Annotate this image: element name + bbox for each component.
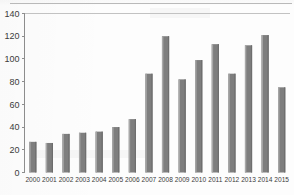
x-axis-tick-label: 2008: [158, 176, 173, 183]
bar-shadow-edge: [218, 44, 219, 172]
bar: [129, 119, 136, 172]
x-axis-tick-label: 2013: [241, 176, 256, 183]
bar-highlight-edge: [29, 142, 30, 173]
y-axis-tick-label: 80: [9, 77, 19, 87]
bar-highlight-edge: [79, 133, 80, 173]
bar-shadow-edge: [35, 142, 36, 173]
bar-shadow-edge: [68, 134, 69, 173]
bar-shadow-edge: [85, 133, 86, 173]
x-axis-tick-label: 2011: [208, 176, 223, 183]
bar-shadow-edge: [284, 87, 285, 172]
bar: [162, 36, 169, 172]
bar-shadow-edge: [268, 35, 269, 172]
bar-highlight-edge: [162, 36, 163, 172]
bar-highlight-edge: [262, 35, 263, 172]
x-axis-tick-label: 2000: [25, 176, 40, 183]
bar-highlight-edge: [145, 74, 146, 173]
x-axis-tick-label: 2015: [274, 176, 289, 183]
chart-plot-area: 0204060801001201402000200120022003200420…: [4, 9, 290, 183]
x-axis-tick-label: 2007: [142, 176, 157, 183]
x-axis-tick-label: 2001: [42, 176, 57, 183]
bar: [145, 74, 152, 173]
x-axis-tick-label: 2002: [59, 176, 74, 183]
y-axis-tick-label: 20: [9, 145, 19, 155]
bar-shadow-edge: [52, 143, 53, 173]
bar-shadow-edge: [201, 60, 202, 172]
x-axis-tick-label: 2004: [92, 176, 107, 183]
bar-chart: 0204060801001201402000200120022003200420…: [0, 0, 294, 195]
bar-shadow-edge: [102, 132, 103, 173]
bar: [179, 79, 186, 172]
bar-highlight-edge: [228, 74, 229, 173]
bar-shadow-edge: [168, 36, 169, 172]
y-axis-tick-label: 60: [9, 100, 19, 110]
x-axis-tick-label: 2012: [225, 176, 240, 183]
x-axis-tick-label: 2003: [75, 176, 90, 183]
bar: [195, 60, 202, 172]
bar-highlight-edge: [96, 132, 97, 173]
x-axis-tick-label: 2005: [108, 176, 123, 183]
bar-shadow-edge: [118, 127, 119, 172]
bar-highlight-edge: [46, 143, 47, 173]
bar-shadow-edge: [135, 119, 136, 172]
bar-highlight-edge: [245, 45, 246, 172]
bar: [262, 35, 269, 172]
y-axis-tick-label: 120: [4, 31, 19, 41]
y-axis-tick-label: 0: [14, 168, 19, 178]
bar-highlight-edge: [278, 87, 279, 172]
bar: [228, 74, 235, 173]
bar-shadow-edge: [234, 74, 235, 173]
bar-highlight-edge: [212, 44, 213, 172]
bar: [212, 44, 219, 172]
x-axis-tick-label: 2006: [125, 176, 140, 183]
bar-shadow-edge: [185, 79, 186, 172]
bar-highlight-edge: [195, 60, 196, 172]
bar: [79, 133, 86, 173]
bar: [29, 142, 36, 173]
bar: [278, 87, 285, 172]
bar: [96, 132, 103, 173]
x-axis-tick-label: 2010: [191, 176, 206, 183]
bar-shadow-edge: [151, 74, 152, 173]
bar: [62, 134, 69, 173]
bar-shadow-edge: [251, 45, 252, 172]
bar: [46, 143, 53, 173]
y-axis-tick-label: 140: [4, 9, 19, 19]
bar-highlight-edge: [112, 127, 113, 172]
y-axis-tick-label: 40: [9, 122, 19, 132]
bar-highlight-edge: [129, 119, 130, 172]
bar: [112, 127, 119, 172]
bar-highlight-edge: [179, 79, 180, 172]
x-axis-tick-label: 2014: [258, 176, 273, 183]
x-axis-tick-label: 2009: [175, 176, 190, 183]
bar-highlight-edge: [62, 134, 63, 173]
bar: [245, 45, 252, 172]
y-axis-tick-label: 100: [4, 54, 19, 64]
